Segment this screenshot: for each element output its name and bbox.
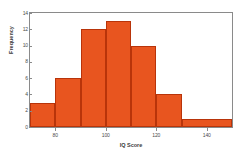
histogram-bar <box>106 21 131 127</box>
x-axis-tick-label: 120 <box>145 132 167 138</box>
x-axis-tick-labels: 80100120140 <box>29 132 233 140</box>
x-axis-tick-mark <box>156 128 157 131</box>
y-axis-tick-label: 0 <box>12 125 28 130</box>
y-axis-tick-mark <box>29 13 32 14</box>
histogram-bar <box>55 78 80 127</box>
x-axis-tick-mark <box>55 128 56 131</box>
y-axis-tick-mark <box>29 111 32 112</box>
histogram-bar <box>30 103 55 127</box>
histogram-figure: 02468101214 80100120140 IQ Score Frequen… <box>0 0 251 157</box>
histogram-bar <box>156 94 181 127</box>
x-axis-tick-label: 80 <box>44 132 66 138</box>
histogram-bar <box>81 29 106 127</box>
y-axis-tick-label: 2 <box>12 108 28 113</box>
x-axis-tick-mark <box>106 128 107 131</box>
x-axis-tick-label: 100 <box>95 132 117 138</box>
y-axis-tick-marks <box>29 12 33 128</box>
y-axis-tick-mark <box>29 94 32 95</box>
y-axis-title-wrapper: Frequency <box>6 5 16 75</box>
y-axis-title: Frequency <box>6 5 16 75</box>
y-axis-tick-mark <box>29 46 32 47</box>
y-axis-tick-mark <box>29 78 32 79</box>
x-axis-tick-label: 140 <box>196 132 218 138</box>
y-axis-tick-mark <box>29 29 32 30</box>
plot-area <box>30 13 232 127</box>
y-axis-tick-mark <box>29 62 32 63</box>
histogram-bar <box>182 119 233 127</box>
x-axis-title: IQ Score <box>29 142 233 148</box>
y-axis-tick-label: 4 <box>12 92 28 97</box>
x-axis-tick-mark <box>207 128 208 131</box>
histogram-bar <box>131 46 156 127</box>
y-axis-tick-label: 6 <box>12 76 28 81</box>
